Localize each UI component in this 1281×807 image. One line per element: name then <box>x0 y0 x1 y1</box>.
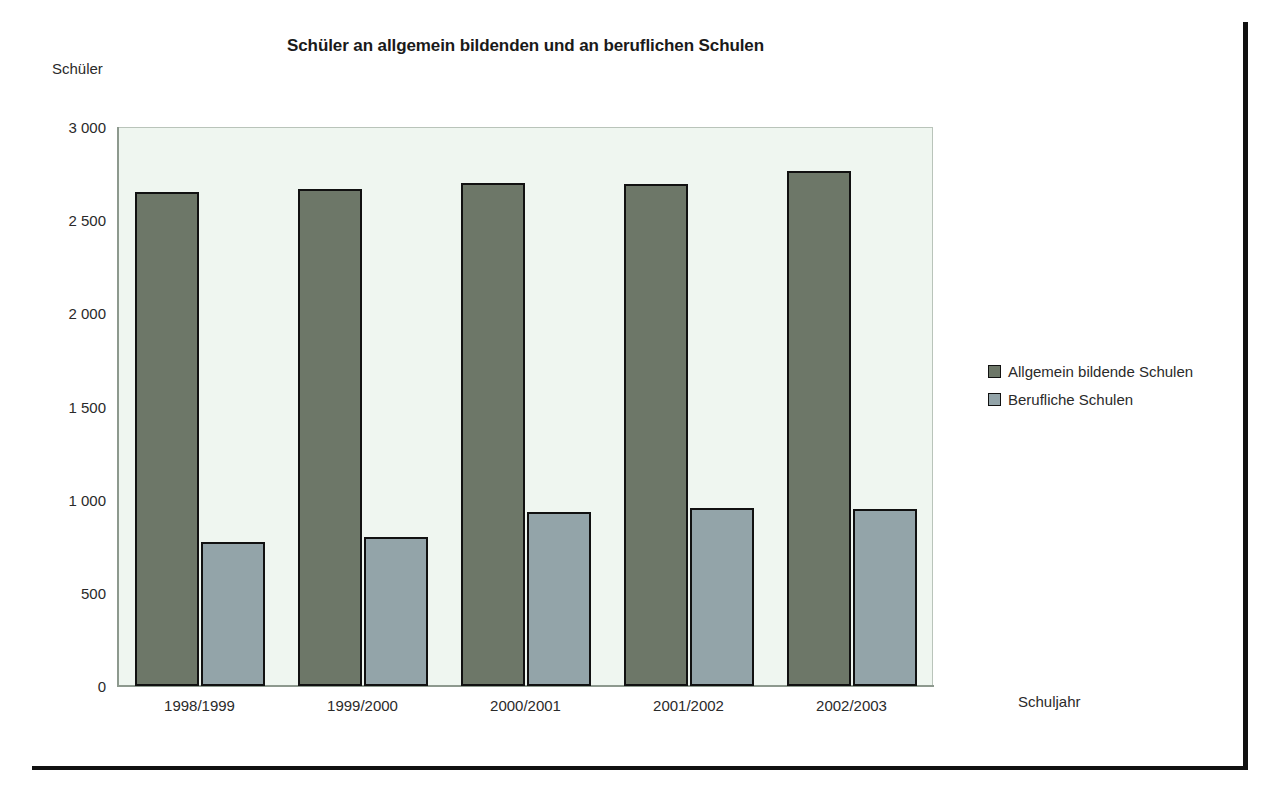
bar[interactable] <box>135 192 199 686</box>
x-tick-label: 1999/2000 <box>327 697 398 714</box>
y-tick-label: 500 <box>30 584 106 601</box>
legend-swatch-icon <box>988 365 1001 378</box>
x-tick-label: 2002/2003 <box>816 697 887 714</box>
x-axis-tick-labels: 1998/19991999/20002000/20012001/20022002… <box>118 697 933 723</box>
bar[interactable] <box>461 183 525 686</box>
chart-legend: Allgemein bildende SchulenBerufliche Sch… <box>988 357 1228 413</box>
legend-label: Berufliche Schulen <box>1008 391 1133 408</box>
x-tick-label: 2001/2002 <box>653 697 724 714</box>
bar-group <box>461 127 591 686</box>
y-tick-label: 1 500 <box>30 398 106 415</box>
x-tick-label: 2000/2001 <box>490 697 561 714</box>
chart-title: Schüler an allgemein bildenden und an be… <box>118 36 933 56</box>
y-tick-label: 1 000 <box>30 491 106 508</box>
legend-item[interactable]: Berufliche Schulen <box>988 385 1228 413</box>
y-tick-label: 0 <box>30 678 106 695</box>
bar[interactable] <box>690 508 754 686</box>
bar[interactable] <box>298 189 362 686</box>
y-axis-tick-labels: 05001 0001 5002 0002 5003 000 <box>22 0 106 807</box>
bar[interactable] <box>201 542 265 686</box>
bar-group <box>624 127 754 686</box>
bar-group <box>787 127 917 686</box>
y-tick-label: 2 000 <box>30 305 106 322</box>
bar[interactable] <box>527 512 591 686</box>
bar[interactable] <box>787 171 851 686</box>
bar-group <box>298 127 428 686</box>
legend-swatch-icon <box>988 393 1001 406</box>
legend-item[interactable]: Allgemein bildende Schulen <box>988 357 1228 385</box>
x-tick-label: 1998/1999 <box>164 697 235 714</box>
bar[interactable] <box>624 184 688 686</box>
bars-layer <box>118 127 933 686</box>
y-tick-label: 2 500 <box>30 212 106 229</box>
bar-group <box>135 127 265 686</box>
y-tick-label: 3 000 <box>30 119 106 136</box>
bar[interactable] <box>853 509 917 686</box>
chart-figure: Schüler an allgemein bildenden und an be… <box>0 0 1281 807</box>
legend-label: Allgemein bildende Schulen <box>1008 363 1193 380</box>
page-frame-bottom-rule <box>32 766 1248 770</box>
bar[interactable] <box>364 537 428 686</box>
x-axis-title: Schuljahr <box>1018 693 1081 710</box>
page-frame-right-rule <box>1243 22 1248 770</box>
